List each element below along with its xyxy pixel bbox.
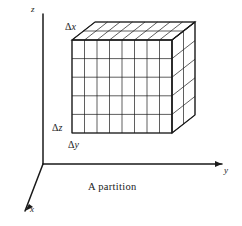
partition-figure: z y x Δx Δz Δy A partition bbox=[0, 0, 242, 226]
delta-z-label: Δz bbox=[52, 123, 62, 133]
front-face-grid bbox=[72, 40, 172, 133]
figure-caption: A partition bbox=[88, 182, 137, 193]
delta-x-variable: x bbox=[71, 21, 75, 32]
y-axis-label: y bbox=[224, 166, 228, 175]
delta-z-variable: z bbox=[58, 122, 62, 133]
y-axis-arrowhead bbox=[215, 161, 222, 167]
right-face-grid bbox=[172, 22, 195, 133]
x-axis-line bbox=[25, 164, 43, 211]
delta-y-variable: y bbox=[74, 139, 78, 150]
x-axis-label: x bbox=[30, 205, 34, 214]
delta-y-label: Δy bbox=[68, 140, 79, 150]
box-group bbox=[72, 22, 195, 133]
top-face-grid bbox=[72, 22, 195, 40]
z-axis-label: z bbox=[31, 5, 35, 14]
delta-x-label: Δx bbox=[65, 22, 76, 32]
